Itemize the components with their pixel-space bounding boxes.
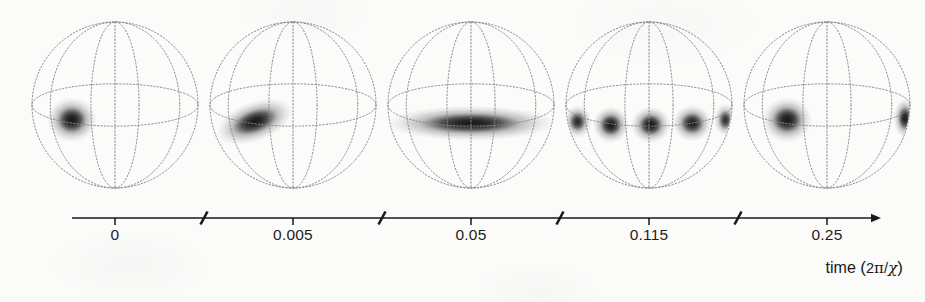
density-lobe-core	[774, 108, 800, 131]
density-lobe-core	[59, 108, 85, 131]
husimi-density-cloud	[211, 89, 300, 154]
axis-tick-label: 0.05	[456, 226, 487, 244]
bloch-sphere-panel	[202, 14, 384, 196]
time-axis: 00.0050.050.1150.25 time (2π/χ)	[0, 196, 925, 302]
bloch-sphere	[24, 14, 206, 196]
axis-tick-label: 0.005	[273, 226, 313, 244]
husimi-density-cloud	[564, 103, 737, 143]
sphere-wireframe	[566, 22, 732, 188]
chi-symbol: χ	[888, 259, 897, 277]
bloch-sphere	[380, 14, 562, 196]
axis-tick-label: 0	[111, 226, 120, 244]
husimi-density-cloud	[762, 98, 916, 143]
sphere-wireframe	[388, 22, 554, 188]
bloch-sphere-panel	[736, 14, 918, 196]
axis-title-text: time	[826, 259, 861, 276]
figure-root: 00.0050.050.1150.25 time (2π/χ)	[0, 0, 925, 302]
axis-title-close-paren: )	[897, 258, 903, 277]
density-lobe-core	[640, 115, 661, 134]
pi-symbol: π	[874, 259, 884, 277]
axis-arrowhead-icon	[871, 214, 881, 222]
bloch-sphere-panel	[380, 14, 562, 196]
axis-title: time (2π/χ)	[826, 258, 903, 278]
bloch-sphere	[202, 14, 384, 196]
bloch-sphere-panel	[24, 14, 206, 196]
axis-tick-label: 0.25	[812, 226, 843, 244]
bloch-sphere	[736, 14, 918, 196]
sphere-wireframe	[210, 22, 376, 188]
axis-tick-label: 0.115	[630, 226, 669, 244]
axis-title-coefficient: 2	[866, 260, 874, 276]
bloch-sphere-panel	[558, 14, 740, 196]
bloch-sphere	[558, 14, 740, 196]
